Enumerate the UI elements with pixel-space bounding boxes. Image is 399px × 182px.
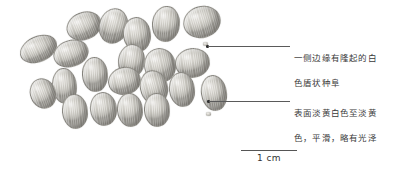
leader-line-surface xyxy=(209,101,290,102)
annotation-caruncle: 一侧边缘有隆起的白 色盾状种阜 xyxy=(294,39,398,102)
seed-specimen xyxy=(150,5,182,44)
seed-field xyxy=(0,0,290,155)
annotation-surface: 表面淡黄白色至淡黄 色，平滑，略有光泽 xyxy=(294,94,398,157)
scale-bar-label: 1 cm xyxy=(232,153,306,163)
annotation-surface-line1: 表面淡黄白色至淡黄 xyxy=(294,107,398,120)
scale-bar-line xyxy=(241,150,297,151)
scale-bar-group: 1 cm xyxy=(232,150,306,163)
annotation-caruncle-line1: 一侧边缘有隆起的白 xyxy=(294,52,398,65)
leader-line-caruncle xyxy=(208,46,290,47)
specimen-plate: 一侧边缘有隆起的白 色盾状种阜 表面淡黄白色至淡黄 色，平滑，略有光泽 1 cm xyxy=(0,0,399,182)
seed-specimen xyxy=(198,73,230,113)
seed-specimen xyxy=(143,92,171,128)
seed-specimen xyxy=(88,90,119,127)
annotation-caruncle-line2: 色盾状种阜 xyxy=(294,77,398,90)
seed-specimen xyxy=(179,1,224,42)
seed-specimen xyxy=(81,56,109,93)
seed-specimen xyxy=(60,93,90,131)
caruncle-nub-lower xyxy=(206,112,211,116)
annotation-surface-line2: 色，平滑，略有光泽 xyxy=(294,132,398,145)
seed-specimen xyxy=(115,92,144,129)
